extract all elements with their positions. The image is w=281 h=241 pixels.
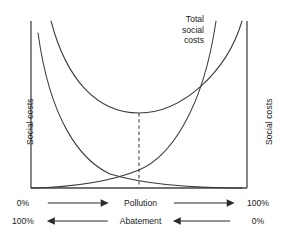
pollution-arrow-left-segment	[46, 197, 110, 209]
abatement-scale-row: 100% Abatement 0%	[0, 214, 281, 228]
total-social-costs-label: Total social costs	[152, 14, 204, 46]
pollution-scale-row: 0% Pollution 100%	[0, 196, 281, 210]
y-axis-label-right: Social costs	[264, 98, 274, 145]
pollution-arrow-right-segment	[172, 197, 236, 209]
pollution-scale-name: Pollution	[110, 198, 172, 208]
abatement-scale-name: Abatement	[110, 216, 172, 226]
abatement-arrow-left-segment	[46, 215, 110, 227]
figure-container: Social costs Social costs Total social c…	[0, 0, 281, 241]
curve-abatement-cost	[38, 33, 242, 188]
abatement-arrow-right-segment	[172, 215, 236, 227]
pollution-scale-right-value: 100%	[235, 198, 281, 208]
abatement-scale-left-value: 100%	[0, 216, 46, 226]
y-axis-label-left: Social costs	[25, 98, 35, 145]
pollution-scale-left-value: 0%	[0, 198, 46, 208]
abatement-scale-right-value: 0%	[235, 216, 281, 226]
